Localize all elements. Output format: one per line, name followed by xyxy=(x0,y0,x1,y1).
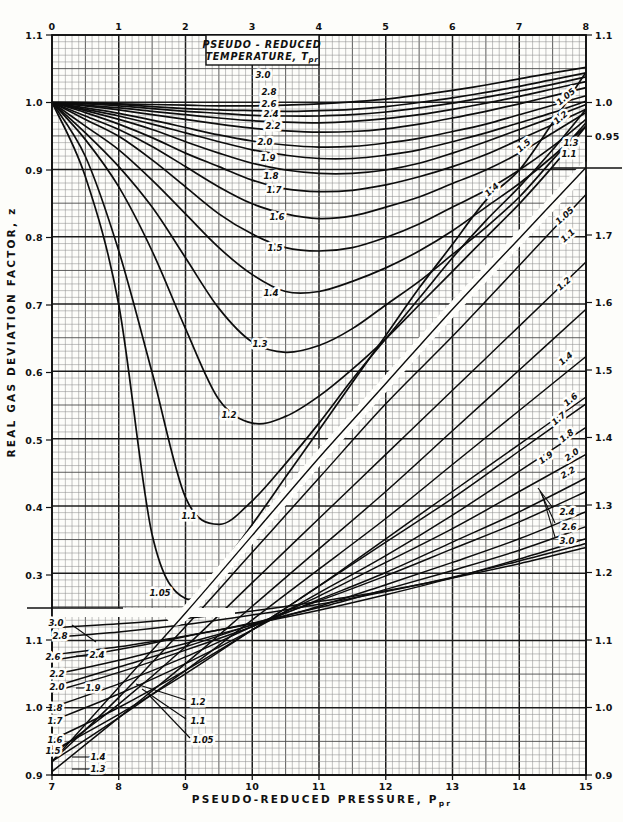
left-main-tick: 0.6 xyxy=(25,367,43,378)
bottom-axis-tick: 14 xyxy=(512,781,526,792)
curve-label-3.0: 3.0 xyxy=(255,70,270,80)
bottom-axis-tick: 7 xyxy=(49,781,56,792)
curve-label-2.8: 2.8 xyxy=(52,631,67,641)
curve-label-1.1: 1.1 xyxy=(181,511,196,521)
right-main-tick: 0.95 xyxy=(595,131,620,142)
left-main-tick: 0.8 xyxy=(25,232,43,243)
curve-label-2.4: 2.4 xyxy=(263,109,278,119)
curve-label-1.05: 1.05 xyxy=(192,735,213,745)
curve-label-1.5: 1.5 xyxy=(267,243,282,253)
right-insert-tick: 1.7 xyxy=(595,230,613,241)
bottom-axis-tick: 10 xyxy=(245,781,259,792)
bottom-axis-tick: 13 xyxy=(446,781,460,792)
left-main-tick: 0.7 xyxy=(25,300,43,311)
right-insert-tick: 1.0 xyxy=(595,702,613,713)
z-factor-chart: 3.02.82.62.42.22.01.91.81.71.61.51.41.31… xyxy=(0,0,623,822)
curve-label-2.6: 2.6 xyxy=(261,99,276,109)
top-axis-tick: 5 xyxy=(382,21,389,32)
curve-label-3.0: 3.0 xyxy=(48,618,63,628)
curve-label-1.2: 1.2 xyxy=(221,410,236,420)
curve-label-2.6: 2.6 xyxy=(561,522,576,532)
right-insert-tick: 1.5 xyxy=(595,365,613,376)
curve-label-1.4: 1.4 xyxy=(263,288,278,298)
left-insert-tick: 1.1 xyxy=(25,635,43,646)
right-insert-tick: 1.6 xyxy=(595,297,613,308)
bottom-axis-tick: 11 xyxy=(312,781,326,792)
curve-label-1.3: 1.3 xyxy=(252,339,267,349)
legend-box: PSEUDO - REDUCEDTEMPERATURE, Tpr xyxy=(202,35,321,65)
right-main-tick: 1.1 xyxy=(595,30,613,41)
y-axis-title: REAL GAS DEVIATION FACTOR, z xyxy=(5,207,17,458)
top-axis-tick: 8 xyxy=(583,21,590,32)
curve-label-1.7: 1.7 xyxy=(266,185,281,195)
curve-label-1.6: 1.6 xyxy=(47,735,62,745)
curve-label-2.6: 2.6 xyxy=(45,652,60,662)
right-insert-tick: 1.4 xyxy=(595,432,613,443)
curve-label-2.8: 2.8 xyxy=(261,87,276,97)
curve-label-2.4: 2.4 xyxy=(559,507,574,517)
curve-label-2.0: 2.0 xyxy=(49,682,64,692)
curve-label-1.9: 1.9 xyxy=(85,683,100,693)
curve-label-2.2: 2.2 xyxy=(265,121,280,131)
bottom-axis-tick: 15 xyxy=(579,781,593,792)
right-insert-tick: 1.2 xyxy=(595,567,613,578)
curve-label-1.1: 1.1 xyxy=(190,716,205,726)
left-main-tick: 0.5 xyxy=(25,435,43,446)
bottom-axis-tick: 8 xyxy=(115,781,122,792)
curve-label-1.3: 1.3 xyxy=(90,764,105,774)
curve-label-1.2: 1.2 xyxy=(190,697,205,707)
right-main-tick: 1.0 xyxy=(595,97,613,108)
right-insert-tick: 1.3 xyxy=(595,500,613,511)
bottom-axis-tick: 9 xyxy=(182,781,189,792)
curve-label-1.3: 1.3 xyxy=(563,138,578,148)
top-axis-tick: 0 xyxy=(49,21,56,32)
curve-label-2.4: 2.4 xyxy=(89,650,104,660)
curve-label-2.0: 2.0 xyxy=(257,137,272,147)
curve-label-1.6: 1.6 xyxy=(269,212,284,222)
top-axis-tick: 7 xyxy=(516,21,523,32)
curve-label-1.7: 1.7 xyxy=(47,716,62,726)
left-main-tick: 1.0 xyxy=(25,97,43,108)
top-axis-tick: 3 xyxy=(249,21,256,32)
curve-label-2.2: 2.2 xyxy=(49,669,64,679)
curve-label-3.0: 3.0 xyxy=(559,536,574,546)
top-axis-tick: 4 xyxy=(316,21,323,32)
curve-label-1.1: 1.1 xyxy=(561,149,576,159)
right-insert-tick: 1.1 xyxy=(595,635,613,646)
curve-label-1.4: 1.4 xyxy=(90,752,105,762)
curve-label-1.9: 1.9 xyxy=(260,153,275,163)
bottom-axis-tick: 12 xyxy=(379,781,393,792)
left-main-tick: 0.9 xyxy=(25,165,43,176)
right-insert-tick: 0.9 xyxy=(595,770,613,781)
left-insert-tick: 0.9 xyxy=(25,770,43,781)
left-main-tick: 0.4 xyxy=(25,502,43,513)
scale-break-strip xyxy=(52,608,235,617)
standing-katz-figure: 3.02.82.62.42.22.01.91.81.71.61.51.41.31… xyxy=(0,0,623,822)
top-axis-tick: 6 xyxy=(449,21,456,32)
left-main-tick: 0.3 xyxy=(25,570,43,581)
curve-label-1.5: 1.5 xyxy=(45,746,60,756)
left-insert-tick: 1.0 xyxy=(25,702,43,713)
curve-label-1.05: 1.05 xyxy=(149,588,170,598)
left-main-tick: 1.1 xyxy=(25,30,43,41)
legend-line1: PSEUDO - REDUCED xyxy=(202,39,321,50)
curve-label-1.8: 1.8 xyxy=(263,171,278,181)
top-axis-tick: 1 xyxy=(115,21,122,32)
top-axis-tick: 2 xyxy=(182,21,189,32)
